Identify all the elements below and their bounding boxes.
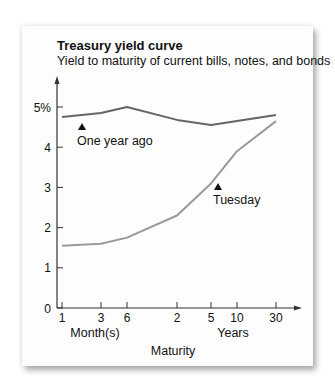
x-axis-title: Maturity (151, 344, 196, 358)
x-tick-label: 30 (269, 311, 283, 325)
y-axis-arrow-icon (55, 76, 60, 84)
one-year-ago-marker-icon (78, 123, 86, 130)
plot-area: 012345% 136251030 One year ago Tuesday M… (0, 0, 335, 387)
tuesday-marker-icon (214, 183, 222, 190)
y-tick-label: 5% (34, 101, 52, 115)
series-lines (62, 107, 276, 246)
x-tick-label: 3 (98, 311, 105, 325)
x-tick-label: 5 (208, 311, 215, 325)
y-tick-label: 3 (44, 181, 51, 195)
y-tick-label: 1 (44, 261, 51, 275)
y-tick-label: 0 (44, 302, 51, 316)
x-tick-label: 10 (230, 311, 244, 325)
y-tick-label: 4 (44, 141, 51, 155)
years-group-label: Years (217, 326, 249, 340)
tuesday-label: Tuesday (213, 193, 261, 207)
axes (55, 76, 303, 311)
y-ticks: 012345% (34, 101, 63, 316)
x-tick-label: 1 (59, 311, 66, 325)
x-tick-label: 6 (124, 311, 131, 325)
y-tick-label: 2 (44, 221, 51, 235)
one-year-ago-label: One year ago (77, 134, 153, 148)
x-ticks: 136251030 (59, 302, 283, 325)
series-line-one-year-ago (62, 107, 276, 125)
months-group-label: Month(s) (70, 326, 119, 340)
x-axis-arrow-icon (294, 306, 302, 311)
x-tick-label: 2 (174, 311, 181, 325)
